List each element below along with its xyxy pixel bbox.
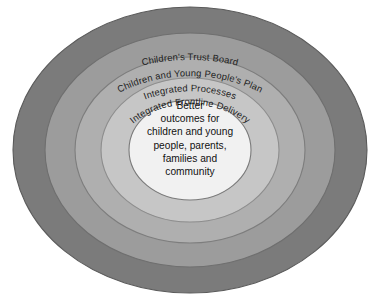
concentric-rings-diagram: Children's Trust Board Children and Youn… <box>0 0 377 306</box>
center-text-line: children and young <box>147 126 233 137</box>
rings-svg: Children's Trust Board Children and Youn… <box>0 0 377 306</box>
center-text-line: outcomes for <box>161 113 220 124</box>
center-text-line: Better <box>176 100 204 111</box>
center-text-line: people, parents, <box>153 140 226 151</box>
center-text-line: community <box>165 166 215 177</box>
center-text-line: families and <box>163 153 218 164</box>
